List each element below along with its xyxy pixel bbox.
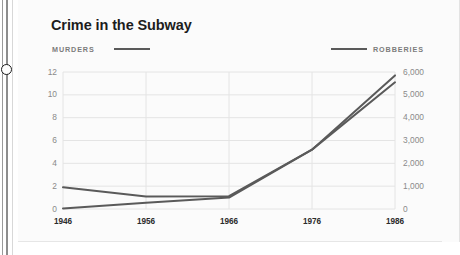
y-axis-right-tick: 1,000 (403, 181, 443, 191)
y-axis-left-tick: 2 (31, 181, 57, 191)
scrubber-handle[interactable] (1, 64, 12, 75)
x-axis-tick: 1956 (124, 217, 168, 226)
chart-card: Crime in the Subway MURDERS ROBBERIES 02… (18, 0, 460, 242)
scrubber-track-inner[interactable] (6, 0, 8, 255)
x-axis-tick: 1966 (207, 217, 251, 226)
y-axis-left-tick: 4 (31, 158, 57, 168)
y-axis-left-tick: 0 (31, 204, 57, 214)
y-axis-left-tick: 12 (31, 67, 57, 77)
y-axis-right-tick: 0 (403, 204, 443, 214)
y-axis-right-tick: 4,000 (403, 112, 443, 122)
x-axis-tick: 1946 (41, 217, 85, 226)
vertical-scrubber[interactable] (0, 0, 18, 255)
card-bottom-edge (18, 241, 442, 242)
y-axis-right-tick: 5,000 (403, 89, 443, 99)
chart-gridlines (63, 72, 395, 209)
y-axis-right-tick: 6,000 (403, 67, 443, 77)
y-axis-left-tick: 8 (31, 112, 57, 122)
y-axis-right-tick: 3,000 (403, 135, 443, 145)
chart-svg (18, 0, 460, 242)
scrubber-track-faint (12, 0, 13, 255)
y-axis-left-tick: 10 (31, 89, 57, 99)
y-axis-left-tick: 6 (31, 135, 57, 145)
y-axis-right-tick: 2,000 (403, 158, 443, 168)
plot-area: 024681012 01,0002,0003,0004,0005,0006,00… (18, 0, 460, 242)
x-axis-tick: 1986 (373, 217, 417, 226)
x-axis-tick: 1976 (290, 217, 334, 226)
scrubber-track-outer (2, 0, 3, 255)
